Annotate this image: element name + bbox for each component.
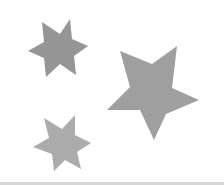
- star-texture-overlay: [33, 115, 91, 171]
- star-texture-overlay: [28, 19, 88, 77]
- star-texture-overlay: [107, 46, 199, 140]
- bottom-divider-strip: [0, 182, 224, 185]
- star-canvas: [0, 0, 224, 185]
